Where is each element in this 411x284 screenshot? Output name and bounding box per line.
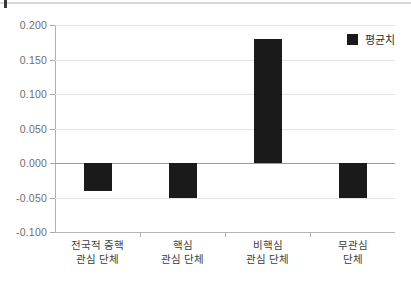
- y-axis-tick: [50, 94, 55, 95]
- gridline: [55, 198, 395, 199]
- x-axis-category-label: 핵심관심 단체: [140, 238, 225, 280]
- category-label-line: 핵심: [173, 239, 193, 251]
- x-axis-tick: [225, 232, 226, 237]
- y-axis-tick-label: -0.100: [16, 226, 47, 238]
- bar: [169, 163, 197, 198]
- x-axis-tick: [140, 232, 141, 237]
- legend-swatch-icon: [347, 34, 358, 45]
- x-axis-tick: [310, 232, 311, 237]
- y-axis-tick: [50, 60, 55, 61]
- y-axis-tick-label: -0.050: [16, 192, 47, 204]
- bar: [339, 163, 367, 198]
- x-axis-category-labels: 전국적 중핵관심 단체핵심관심 단체비핵심관심 단체무관심단체: [55, 238, 395, 280]
- y-axis-tick-label: 0.150: [20, 54, 47, 66]
- category-label-line: 관심 단체: [140, 252, 225, 266]
- y-axis-tick: [50, 198, 55, 199]
- category-label-line: 전국적 중핵: [71, 239, 124, 251]
- legend-label: 평균치: [365, 31, 395, 47]
- y-axis-tick-label: 0.050: [20, 123, 47, 135]
- gridline: [55, 25, 395, 26]
- x-axis-category-label: 무관심단체: [310, 238, 395, 280]
- page-top-rule: [0, 2, 411, 4]
- x-axis-category-label: 비핵심관심 단체: [225, 238, 310, 280]
- chart-figure: 0.2000.1500.1000.0500.000-0.050-0.100 전국…: [0, 0, 411, 284]
- y-axis-tick-label: 0.200: [20, 19, 47, 31]
- y-axis-tick: [50, 129, 55, 130]
- y-axis-tick: [50, 232, 55, 233]
- y-axis-tick-label: 0.000: [20, 157, 47, 169]
- gridline: [55, 129, 395, 130]
- category-label-line: 관심 단체: [55, 252, 140, 266]
- category-label-line: 무관심: [338, 239, 368, 251]
- category-label-line: 비핵심: [253, 239, 283, 251]
- plot-area: 0.2000.1500.1000.0500.000-0.050-0.100: [55, 25, 395, 232]
- chart-legend: 평균치: [347, 31, 395, 47]
- y-axis-tick: [50, 25, 55, 26]
- y-axis-tick: [50, 163, 55, 164]
- y-axis-tick-label: 0.100: [20, 88, 47, 100]
- x-axis-category-label: 전국적 중핵관심 단체: [55, 238, 140, 280]
- category-label-line: 관심 단체: [225, 252, 310, 266]
- page-corner-mark: [4, 0, 7, 8]
- category-label-line: 단체: [310, 252, 395, 266]
- gridline: [55, 60, 395, 61]
- bar: [254, 39, 282, 163]
- bar: [84, 163, 112, 191]
- gridline: [55, 94, 395, 95]
